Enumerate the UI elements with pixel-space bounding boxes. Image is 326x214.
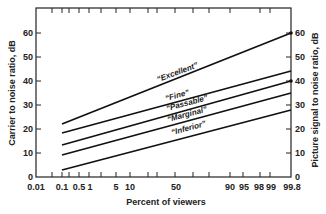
right-y-labels: 0 10 20 30 40 50 60 (295, 28, 305, 182)
x-tick-labels: 0.01 0.1 0.5 1 5 10 50 90 95 98 99 99.8 (27, 182, 301, 192)
x-tick-label: 0.1 (56, 182, 69, 192)
y-right-label: 20 (295, 124, 305, 134)
left-y-labels: 0 10 20 30 40 50 60 (23, 28, 33, 182)
x-tick-label: 0.5 (73, 182, 86, 192)
x-tick-label: 90 (225, 182, 235, 192)
y-left-label: 30 (23, 100, 33, 110)
x-axis-title: Percent of viewers (126, 197, 206, 207)
y-right-label: 10 (295, 148, 305, 158)
y-right-label: 50 (295, 52, 305, 62)
x-tick-label: 95 (239, 182, 249, 192)
x-tick-label: 1 (87, 182, 92, 192)
marker-dot (289, 31, 293, 35)
y-left-label: 40 (23, 76, 33, 86)
bottom-ticks (52, 172, 270, 177)
y-left-label: 60 (23, 28, 33, 38)
top-ticks (52, 8, 270, 13)
y-left-label: 20 (23, 124, 33, 134)
y-right-label: 60 (295, 28, 305, 38)
left-y-ticks (36, 33, 41, 153)
y-right-label: 30 (295, 100, 305, 110)
y-right-label: 0 (295, 172, 300, 182)
y-axis-title-right: Picture signal to noise ratio, dB (310, 32, 320, 168)
x-tick-label: 10 (125, 182, 135, 192)
x-tick-label: 99.8 (283, 182, 301, 192)
x-tick-label: 0.01 (27, 182, 45, 192)
y-left-label: 10 (23, 148, 33, 158)
y-left-label: 50 (23, 52, 33, 62)
x-tick-label: 98 (254, 182, 264, 192)
y-right-label: 40 (295, 76, 305, 86)
x-tick-label: 99 (266, 182, 276, 192)
y-left-label: 0 (28, 172, 33, 182)
y-axis-title-left: Carrier to noise ratio, dB (7, 40, 17, 146)
marker-dot (289, 79, 293, 83)
x-tick-label: 5 (113, 182, 118, 192)
x-tick-label: 50 (171, 182, 181, 192)
chart: 0 10 20 30 40 50 60 0 10 20 30 40 50 60 … (0, 0, 326, 214)
